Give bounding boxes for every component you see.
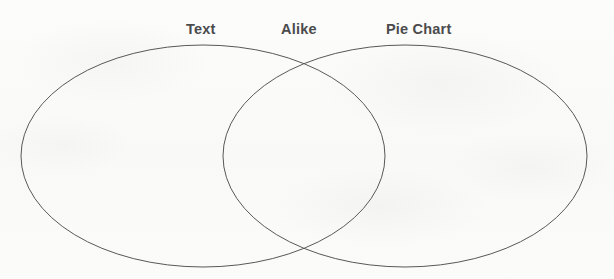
venn-label-left: Text (186, 22, 216, 37)
venn-label-layer: Text Alike Pie Chart (0, 0, 614, 279)
venn-label-right: Pie Chart (386, 22, 451, 37)
venn-diagram: Text Alike Pie Chart (0, 0, 614, 279)
venn-label-center: Alike (281, 22, 317, 37)
